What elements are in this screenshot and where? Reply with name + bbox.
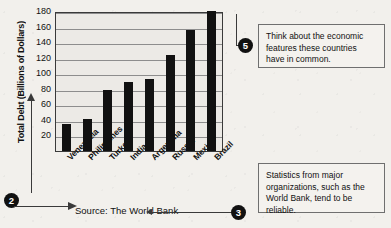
bar-brazil (207, 11, 216, 151)
bar-argentina (145, 79, 154, 151)
bar-mexico (186, 30, 195, 151)
annotation-marker-3: 3 (231, 205, 246, 220)
callout-box-top: Think about the economic features these … (258, 24, 385, 68)
plot-area (55, 12, 223, 152)
x-axis-category-labels: VenezuelaPhilippinesTurkeyIndiaArgentina… (55, 152, 223, 198)
y-axis-tick-labels: 20406080100120140160180 (0, 12, 55, 152)
annotation-marker-5: 5 (238, 38, 253, 53)
source-caption: Source: The World Bank (75, 205, 178, 216)
marker-3-connector-line (150, 212, 233, 213)
x-axis-label-argentina: Argentina (145, 152, 154, 198)
x-axis-label-brazil: Brazil (208, 152, 217, 198)
x-axis-label-venezuela: Venezuela (61, 152, 70, 198)
arrow-up-shaft (31, 100, 32, 193)
y-axis-tick-label: 40 (5, 116, 55, 125)
bar-venezuela (62, 124, 71, 151)
y-axis-tick-label: 120 (5, 54, 55, 63)
x-axis-label-philippines: Philippines (82, 152, 91, 198)
y-axis-tick-label: 180 (5, 7, 55, 16)
y-axis-tick-label: 20 (5, 131, 55, 140)
x-axis-label-russia: Russia (166, 152, 175, 198)
callout-box-bottom: Statistics from major organizations, suc… (258, 163, 385, 213)
x-axis-label-turkey: Turkey (103, 152, 112, 198)
y-axis-tick-label: 140 (5, 38, 55, 47)
y-axis-tick-label: 60 (5, 100, 55, 109)
x-axis-label-mexico: Mexico (187, 152, 196, 198)
marker-5-connector-vertical (236, 14, 237, 46)
x-axis-label-india: India (124, 152, 133, 198)
bar-series (56, 13, 222, 151)
y-axis-tick-label: 160 (5, 23, 55, 32)
arrow-right-shaft (14, 206, 70, 207)
y-axis-tick-label: 100 (5, 69, 55, 78)
